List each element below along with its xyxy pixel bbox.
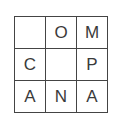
- grid-cell-r1c3: M: [77, 17, 108, 49]
- grid-row-3: A N A: [15, 81, 108, 113]
- letter-grid: O M C P A N A: [14, 16, 108, 113]
- grid-cell-r3c2: N: [46, 81, 77, 113]
- grid-row-1: O M: [15, 17, 108, 49]
- grid-cell-r3c1: A: [15, 81, 46, 113]
- grid-cell-r2c3: P: [77, 49, 108, 81]
- grid-cell-r3c3: A: [77, 81, 108, 113]
- grid-cell-r1c2: O: [46, 17, 77, 49]
- grid-cell-r1c1: [15, 17, 46, 49]
- grid-cell-r2c2: [46, 49, 77, 81]
- grid-row-2: C P: [15, 49, 108, 81]
- grid-cell-r2c1: C: [15, 49, 46, 81]
